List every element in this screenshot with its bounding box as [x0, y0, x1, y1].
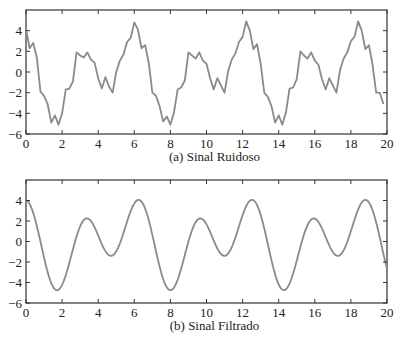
y-tick-label: 4 [16, 193, 23, 208]
x-tick-label: 2 [59, 136, 66, 151]
x-tick-label: 16 [308, 305, 322, 320]
y-tick-label: 0 [16, 65, 23, 80]
noisy-signal-line [26, 21, 383, 124]
x-tick-label: 14 [272, 136, 286, 151]
x-tick-label: 16 [308, 136, 322, 151]
plot-area-filtered [26, 180, 387, 303]
caption-noisy: (a) Sinal Ruidoso [169, 149, 260, 164]
figure: 02468101214161820 −6−4−2024 (a) Sinal Ru… [0, 0, 405, 344]
x-tick-label: 20 [381, 305, 394, 320]
panel-filtered-signal: 02468101214161820 −6−4−2024 (b) Sinal Fi… [8, 180, 393, 333]
y-tick-label: −6 [8, 296, 22, 311]
y-tick-label: 0 [16, 234, 23, 249]
x-tick-label: 4 [95, 136, 102, 151]
x-axis-ticks: 02468101214161820 [23, 180, 394, 320]
caption-filtered: (b) Sinal Filtrado [170, 318, 260, 333]
plot-area-noisy [26, 10, 387, 134]
y-tick-label: −6 [8, 127, 22, 142]
x-tick-label: 6 [131, 305, 138, 320]
x-tick-label: 2 [59, 305, 66, 320]
x-tick-label: 18 [344, 136, 357, 151]
y-tick-label: −4 [8, 275, 22, 290]
y-axis-ticks: −6−4−2024 [8, 23, 387, 141]
y-tick-label: −2 [8, 85, 22, 100]
x-tick-label: 0 [23, 136, 30, 151]
filtered-signal-line [26, 200, 387, 290]
x-tick-label: 18 [344, 305, 357, 320]
x-tick-label: 14 [272, 305, 286, 320]
x-tick-label: 4 [95, 305, 102, 320]
y-tick-label: 2 [16, 214, 23, 229]
y-tick-label: 2 [16, 44, 23, 59]
x-tick-label: 0 [23, 305, 30, 320]
y-tick-label: −4 [8, 106, 22, 121]
y-tick-label: −2 [8, 255, 22, 270]
x-tick-label: 6 [131, 136, 138, 151]
y-axis-ticks: −6−4−2024 [8, 193, 387, 311]
x-tick-label: 20 [381, 136, 394, 151]
panel-noisy-signal: 02468101214161820 −6−4−2024 (a) Sinal Ru… [8, 10, 393, 164]
y-tick-label: 4 [16, 23, 23, 38]
